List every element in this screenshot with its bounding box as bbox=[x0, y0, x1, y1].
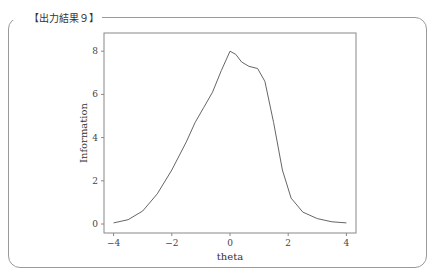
svg-text:0: 0 bbox=[92, 219, 98, 229]
plot-area bbox=[104, 33, 356, 233]
svg-text:2: 2 bbox=[92, 176, 98, 186]
x-axis-label: theta bbox=[217, 251, 243, 262]
x-axis-ticks: −4−2024 bbox=[107, 233, 350, 248]
information-chart: −4−2024 02468 theta Information bbox=[0, 0, 434, 277]
svg-text:−4: −4 bbox=[107, 238, 121, 248]
svg-text:−2: −2 bbox=[165, 238, 178, 248]
svg-text:4: 4 bbox=[344, 238, 350, 248]
information-curve bbox=[114, 51, 347, 223]
svg-text:6: 6 bbox=[92, 89, 98, 99]
y-axis-label: Information bbox=[78, 102, 89, 163]
svg-text:2: 2 bbox=[285, 238, 291, 248]
y-axis-ticks: 02468 bbox=[92, 46, 104, 229]
svg-text:0: 0 bbox=[227, 238, 233, 248]
svg-text:8: 8 bbox=[92, 46, 98, 56]
svg-text:4: 4 bbox=[92, 133, 98, 143]
